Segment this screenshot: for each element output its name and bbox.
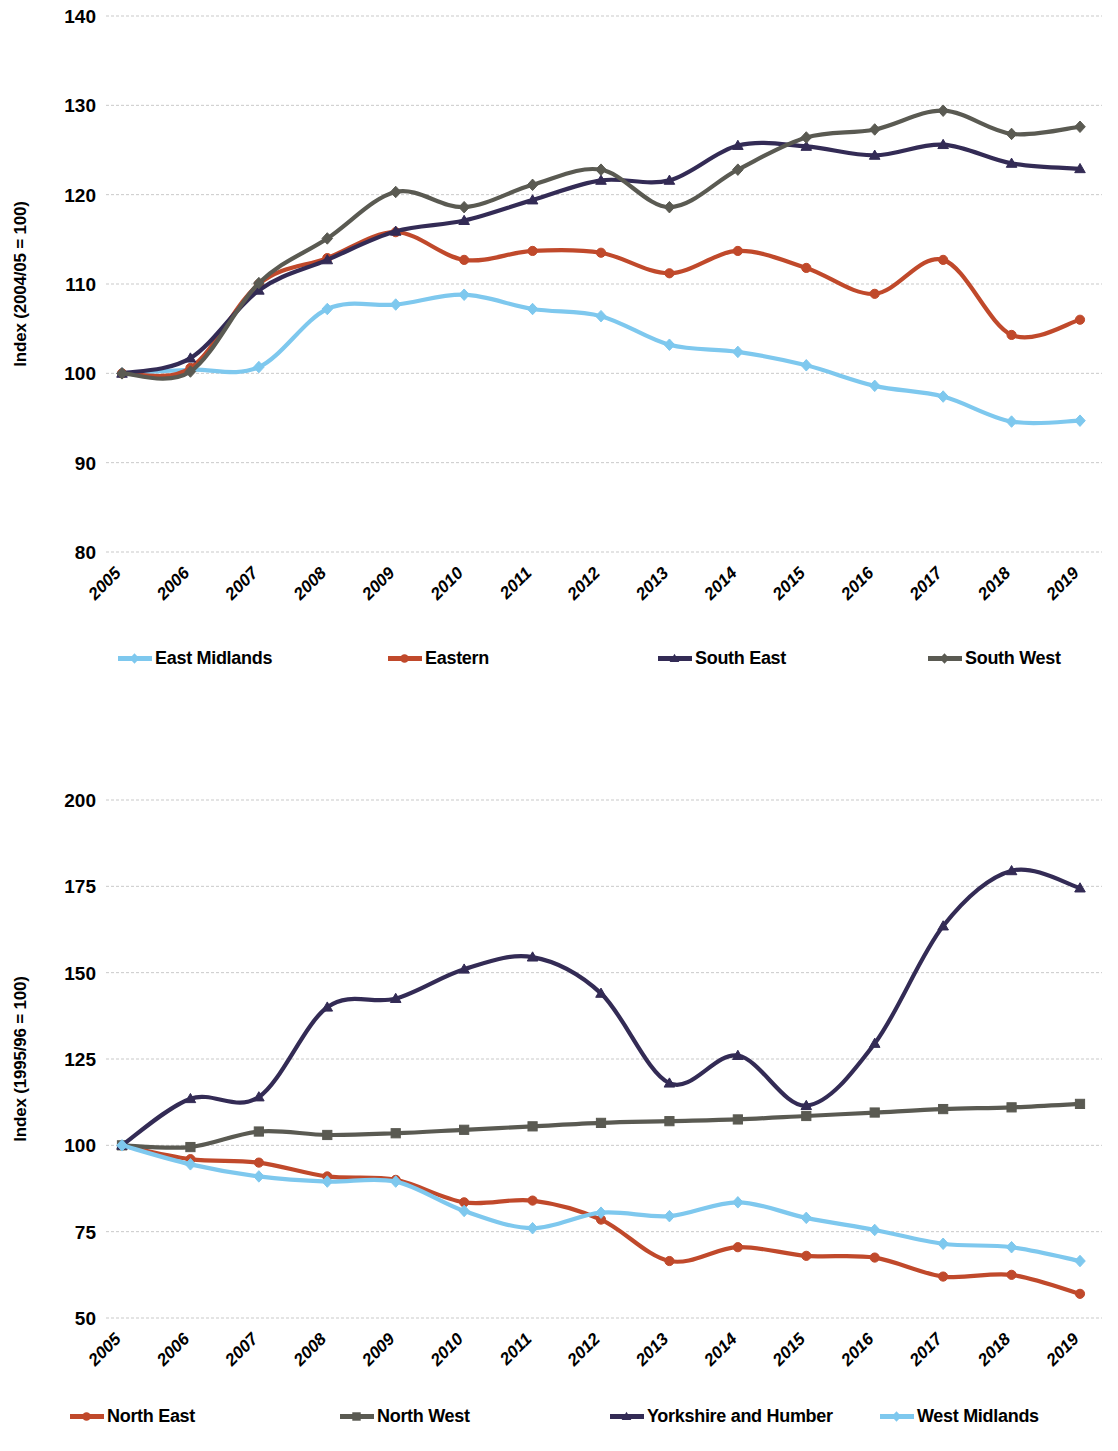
legend-swatch-south-east [658,656,692,661]
data-point-marker [1007,1103,1016,1112]
data-point-marker [390,299,401,311]
x-tick-label: 2007 [221,1328,263,1370]
data-point-marker [1006,416,1017,428]
data-point-marker [528,1122,537,1131]
x-tick-label: 2013 [631,563,672,604]
legend-marker-icon [669,653,680,664]
legend-label-south-east: South East [695,648,786,669]
series-north-west [117,1099,1084,1151]
legend-swatch-south-west [928,656,962,661]
x-tick-label: 2009 [358,1329,399,1370]
y-tick-label: 150 [64,963,96,984]
data-point-marker [802,263,811,272]
legend-marker-icon [81,1411,92,1422]
data-point-marker [596,164,607,176]
data-point-marker [869,380,880,392]
legend-swatch-north-west [340,1414,374,1419]
legend-label-yorkshire-and-humber: Yorkshire and Humber [647,1406,833,1427]
x-tick-label: 2015 [768,563,809,604]
data-point-marker [1007,1270,1016,1279]
data-point-marker [527,179,538,191]
data-point-marker [460,255,469,264]
x-tick-label: 2009 [358,563,399,604]
legend-swatch-north-east [70,1414,104,1419]
x-tick-label: 2013 [631,1329,672,1370]
data-point-marker [733,1115,742,1124]
data-point-marker [938,1238,949,1250]
x-tick-label: 2010 [426,1329,467,1370]
legend-item-yorkshire-and-humber[interactable]: Yorkshire and Humber [610,1406,880,1427]
series-eastern [117,228,1084,378]
data-point-marker [459,1205,470,1217]
x-tick-label: 2010 [426,563,467,604]
y-tick-label: 75 [75,1222,97,1243]
data-point-marker [733,246,742,255]
chart-upper-southern-regions: Index (2004/05 = 100)8090100110120130140… [0,0,1118,710]
chart-1-legend: East Midlands Eastern South East South W… [0,648,1118,669]
chart-2-legend: North East North West Yorkshire and Humb… [0,1406,1118,1427]
y-tick-label: 50 [75,1308,96,1329]
chart-2-plot-area: Index (1995/96 = 100)5075100125150175200… [0,760,1118,1400]
data-point-marker [390,186,401,198]
data-point-marker [801,360,812,372]
data-point-marker [1006,1241,1017,1253]
legend-label-east-midlands: East Midlands [155,648,272,669]
y-tick-label: 140 [64,6,96,27]
data-point-marker [254,1158,263,1167]
data-point-marker [596,310,607,322]
legend-item-north-west[interactable]: North West [340,1406,610,1427]
x-tick-label: 2006 [152,563,193,604]
data-point-marker [939,255,948,264]
legend-label-west-midlands: West Midlands [917,1406,1039,1427]
legend-item-eastern[interactable]: Eastern [388,648,658,669]
data-point-marker [664,339,675,351]
data-point-marker [870,1253,879,1262]
x-tick-label: 2015 [768,1329,809,1370]
x-tick-label: 2017 [905,1328,947,1370]
chart-1-plot-area: Index (2004/05 = 100)8090100110120130140… [0,0,1118,650]
data-point-marker [733,346,744,358]
data-point-marker [801,1212,812,1224]
data-point-marker [938,105,949,117]
legend-item-east-midlands[interactable]: East Midlands [118,648,388,669]
y-tick-label: 125 [64,1049,96,1070]
legend-marker-icon [351,1411,362,1422]
data-point-marker [665,1256,674,1265]
data-point-marker [870,1108,879,1117]
legend-label-eastern: Eastern [425,648,489,669]
data-point-marker [939,1272,948,1281]
legend-item-south-west[interactable]: South West [928,648,1061,669]
y-axis-title: Index (1995/96 = 100) [11,976,30,1141]
data-point-marker [665,1117,674,1126]
legend-label-north-west: North West [377,1406,470,1427]
data-point-marker [733,1197,744,1209]
x-tick-label: 2014 [700,1329,741,1370]
x-tick-label: 2007 [221,562,263,604]
data-point-marker [1075,415,1086,427]
data-point-marker [460,1125,469,1134]
data-point-marker [459,201,470,213]
data-point-marker [665,269,674,278]
data-point-marker [1007,330,1016,339]
legend-marker-icon [129,653,140,664]
data-point-marker [869,124,880,136]
y-axis-title: Index (2004/05 = 100) [11,201,30,366]
x-tick-label: 2016 [837,1329,878,1370]
data-point-marker [527,1222,538,1234]
series-line [122,111,1080,379]
legend-item-north-east[interactable]: North East [70,1406,340,1427]
legend-item-south-east[interactable]: South East [658,648,928,669]
x-tick-label: 2018 [974,1329,1015,1370]
x-tick-label: 2012 [563,1329,604,1370]
legend-swatch-eastern [388,656,422,661]
x-tick-label: 2012 [563,563,604,604]
x-tick-label: 2019 [1042,563,1083,604]
legend-marker-icon [399,653,410,664]
legend-item-west-midlands[interactable]: West Midlands [880,1406,1039,1427]
data-point-marker [323,1130,332,1139]
y-tick-label: 100 [64,1135,96,1156]
data-point-marker [186,1142,195,1151]
y-tick-label: 130 [64,95,96,116]
data-point-marker [802,1251,811,1260]
series-east-midlands [117,289,1086,427]
